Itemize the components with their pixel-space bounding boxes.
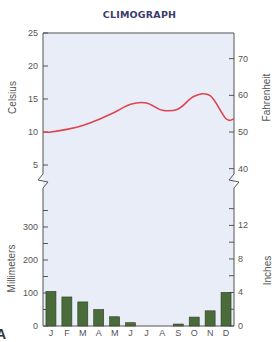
- precipitation-bar: [94, 310, 104, 327]
- month-label: N: [207, 328, 214, 338]
- inch-tick-label: 8: [238, 254, 243, 264]
- precipitation-bar: [78, 302, 88, 326]
- fahrenheit-axis-label: Fahrenheit: [261, 73, 272, 121]
- inch-tick-label: 0: [238, 321, 243, 331]
- mm-tick-label: 300: [23, 222, 38, 232]
- precipitation-bar: [221, 292, 231, 326]
- month-label: O: [191, 328, 198, 338]
- month-label: A: [159, 328, 165, 338]
- plot-area: [43, 33, 234, 326]
- inch-tick-label: 4: [238, 287, 243, 297]
- month-label: J: [144, 328, 149, 338]
- fahrenheit-tick-label: 40: [238, 164, 248, 174]
- millimeters-axis-label: Millimeters: [6, 244, 17, 292]
- month-label: J: [49, 328, 54, 338]
- precipitation-bar: [126, 323, 136, 326]
- mm-tick-label: 200: [23, 255, 38, 265]
- celsius-tick-label: 25: [28, 28, 38, 38]
- fahrenheit-tick-label: 50: [238, 127, 248, 137]
- fahrenheit-tick-label: 70: [238, 54, 248, 64]
- inch-tick-label: 12: [238, 220, 248, 230]
- celsius-axis-label: Celsius: [6, 81, 17, 114]
- precipitation-bar: [46, 291, 56, 326]
- celsius-tick-label: 5: [33, 160, 38, 170]
- month-label: M: [111, 328, 119, 338]
- month-label: A: [96, 328, 102, 338]
- celsius-tick-label: 15: [28, 94, 38, 104]
- month-label: D: [223, 328, 230, 338]
- celsius-tick-label: 10: [28, 127, 38, 137]
- mm-tick-label: 100: [23, 288, 38, 298]
- mm-tick-label: 0: [33, 321, 38, 331]
- month-label: J: [128, 328, 133, 338]
- month-label: M: [79, 328, 87, 338]
- corner-glyph: A: [0, 326, 6, 342]
- celsius-tick-label: 20: [28, 61, 38, 71]
- fahrenheit-tick-label: 60: [238, 90, 248, 100]
- precipitation-bar: [62, 297, 72, 326]
- precipitation-bar: [205, 311, 215, 326]
- month-label: S: [175, 328, 181, 338]
- precipitation-bar: [189, 317, 199, 326]
- month-label: F: [64, 328, 70, 338]
- precipitation-bar: [110, 317, 120, 326]
- inches-axis-label: Inches: [262, 255, 273, 284]
- precipitation-bar: [173, 324, 183, 326]
